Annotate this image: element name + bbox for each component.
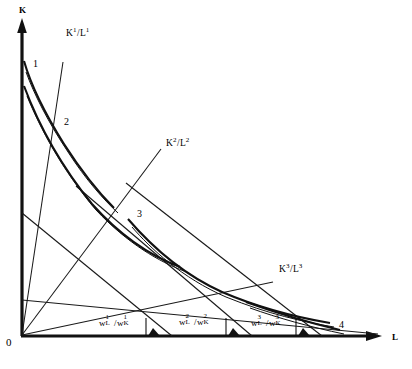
isoquant-figure: K L 0 1 2 3 4 K1/L1 K2/L2 K3/L3 w1L/w1K … [0,0,412,369]
ray-1-denominator-exp: 1 [86,26,90,34]
w3-numerator-indices: 3L [258,317,266,326]
ray-3-numerator: K [279,264,286,274]
wedge-marker-1 [148,328,160,336]
kl-ratio-rays [22,62,273,335]
ray-label-k3-l3: K3/L3 [279,265,302,275]
w3-denominator-indices: 3K [276,317,284,326]
w2-numerator-indices: 2L [186,316,194,325]
ray-label-k1-l1: K1/L1 [66,29,89,39]
isocost-lines [22,183,378,336]
isoquant-2-main [24,86,180,267]
wage-ratio-label-1: w1L/w1K [99,317,132,328]
ray-k1-l1 [22,62,63,335]
capital-axis-arrowhead [17,18,27,33]
origin-label: 0 [6,337,12,348]
ray-2-numerator: K [166,138,173,148]
w3-numerator-sub: L [258,320,262,327]
ray-k3-l3 [22,282,273,335]
isoquant-label-4: 4 [339,320,344,330]
isoquant-curve-3 [128,219,334,327]
labour-axis-label: L [392,333,398,342]
w2-denominator-indices: 2K [204,316,212,325]
isoquant-1-shadow [26,72,118,213]
isoquant-label-2: 2 [64,117,69,127]
w3-denominator-sub: K [276,320,281,327]
isoquant-label-1: 1 [33,59,38,69]
wedge-marker-2 [228,328,240,336]
ray-1-numerator: K [66,28,73,38]
w1-denominator-sub: K [124,320,129,327]
ray-label-k2-l2: K2/L2 [166,139,189,149]
isoquant-label-3: 3 [137,209,142,219]
capital-axis-label: K [19,6,26,15]
w2-denominator-sub: K [204,319,209,326]
isoquant-curve-2 [24,86,184,271]
w2-numerator-sub: L [186,319,190,326]
w1-numerator-sub: L [106,320,110,327]
isoquant-curve-1 [24,61,118,213]
ray-2-denominator-exp: 2 [186,136,190,144]
wedge-marker-3 [298,328,310,336]
isocost-line-1 [22,213,172,336]
wage-ratio-label-3: w3L/w3K [251,317,284,328]
w1-numerator-indices: 1L [106,317,114,326]
isoquant-1-main [24,61,114,208]
isoquant-3-shadow [132,227,334,327]
wage-ratio-label-2: w2L/w2K [179,316,212,327]
labour-axis-arrowhead [366,331,382,341]
ray-3-denominator-exp: 3 [299,262,303,270]
w1-denominator-indices: 1K [124,317,132,326]
